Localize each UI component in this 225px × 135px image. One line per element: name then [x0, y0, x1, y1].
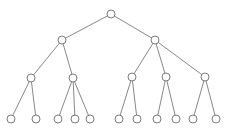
tree-node — [201, 73, 209, 81]
tree-edge — [132, 77, 137, 119]
tree-nodes — [7, 10, 220, 123]
tree-edge — [11, 78, 31, 119]
tree-leaf-node — [153, 115, 161, 123]
tree-edge — [155, 40, 205, 77]
tree-edges — [11, 14, 216, 119]
tree-node — [27, 74, 35, 82]
tree-edge — [73, 78, 90, 119]
tree-edge — [132, 40, 155, 77]
tree-node — [69, 74, 77, 82]
tree-edge — [205, 77, 216, 119]
tree-edge — [31, 40, 62, 78]
tree-node — [58, 36, 66, 44]
tree-edge — [111, 14, 155, 40]
tree-edge — [119, 77, 132, 119]
tree-leaf-node — [86, 115, 94, 123]
tree-diagram — [0, 0, 225, 135]
tree-edge — [31, 78, 36, 119]
tree-leaf-node — [71, 115, 79, 123]
tree-leaf-node — [172, 115, 180, 123]
tree-edge — [155, 40, 166, 77]
tree-node — [162, 73, 170, 81]
tree-leaf-node — [189, 115, 197, 123]
tree-edge — [193, 77, 205, 119]
tree-edge — [166, 77, 176, 119]
tree-leaf-node — [133, 115, 141, 123]
tree-leaf-node — [7, 115, 15, 123]
tree-edge — [62, 14, 111, 40]
tree-leaf-node — [54, 115, 62, 123]
tree-leaf-node — [212, 115, 220, 123]
tree-leaf-node — [115, 115, 123, 123]
tree-node — [151, 36, 159, 44]
tree-edge — [73, 78, 75, 119]
tree-node — [128, 73, 136, 81]
tree-edge — [157, 77, 166, 119]
tree-leaf-node — [32, 115, 40, 123]
tree-edge — [58, 78, 73, 119]
tree-root-node — [107, 10, 115, 18]
tree-edge — [62, 40, 73, 78]
